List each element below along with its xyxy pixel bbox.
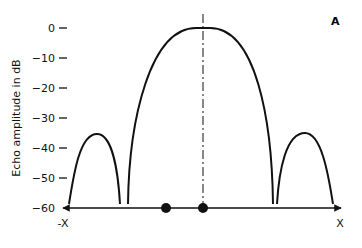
x-axis-right-label: X — [336, 217, 344, 230]
right-side-lobe-curve — [277, 133, 333, 204]
x-axis-left-label: -X — [58, 217, 69, 230]
y-axis-ticks: 0 −10 −20 −30 −40 −50 −60 — [32, 22, 67, 215]
y-axis-title: Echo amplitude in dB — [10, 59, 23, 176]
axis-point-marker — [161, 203, 171, 213]
svg-text:−50: −50 — [32, 172, 55, 185]
y-tick: −10 — [32, 52, 67, 65]
y-tick: 0 — [48, 22, 67, 35]
y-tick: −50 — [32, 172, 67, 185]
svg-text:−20: −20 — [32, 82, 55, 95]
main-lobe-curve — [128, 28, 273, 204]
y-tick: −20 — [32, 82, 67, 95]
svg-text:−30: −30 — [32, 112, 55, 125]
echo-amplitude-chart: A Echo amplitude in dB 0 −10 −20 −30 −40… — [0, 0, 362, 248]
svg-text:−10: −10 — [32, 52, 55, 65]
svg-text:0: 0 — [48, 22, 55, 35]
y-tick: −40 — [32, 142, 67, 155]
panel-label: A — [331, 15, 340, 28]
y-tick: −60 — [32, 202, 55, 215]
svg-text:−40: −40 — [32, 142, 55, 155]
axis-point-marker — [198, 203, 208, 213]
y-tick: −30 — [32, 112, 67, 125]
svg-text:−60: −60 — [32, 202, 55, 215]
left-side-lobe-curve — [69, 134, 120, 204]
